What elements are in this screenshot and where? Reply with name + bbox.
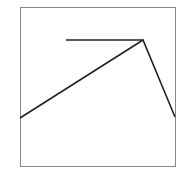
- line-chart: [0, 0, 177, 171]
- series-line-polyline: [20, 40, 175, 118]
- plot-frame: [21, 8, 176, 167]
- series-group: [20, 40, 175, 118]
